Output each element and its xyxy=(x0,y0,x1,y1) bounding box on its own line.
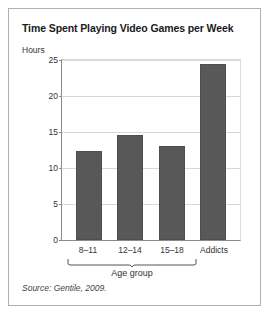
y-axis-label: Hours xyxy=(22,45,45,55)
y-axis-tick-label: 10 xyxy=(49,163,58,173)
figure-frame: Time Spent Playing Video Games per Week … xyxy=(8,8,261,306)
y-axis-tick-label: 20 xyxy=(49,91,58,101)
y-axis-tick-mark xyxy=(59,240,62,241)
x-axis-tick-label: Addicts xyxy=(194,245,234,255)
x-axis-group-label: Age group xyxy=(67,268,197,278)
age-group-brace-icon xyxy=(67,259,197,268)
bar xyxy=(117,135,143,240)
bar xyxy=(200,64,226,240)
chart-title: Time Spent Playing Video Games per Week xyxy=(22,22,233,34)
x-axis-tick-label: 15–18 xyxy=(152,245,192,255)
y-axis-tick-label: 5 xyxy=(53,199,58,209)
plot-wrapper: 0510152025 8–1112–1415–18Addicts Age gro… xyxy=(22,55,249,245)
plot-area: 0510152025 xyxy=(61,59,241,241)
y-axis-tick-label: 15 xyxy=(49,127,58,137)
bar xyxy=(159,146,185,240)
x-axis-tick-labels: 8–1112–1415–18Addicts xyxy=(61,245,241,255)
y-axis-tick-label: 25 xyxy=(49,55,58,65)
bar-series xyxy=(62,60,240,240)
x-axis-tick-label: 12–14 xyxy=(110,245,150,255)
y-axis-tick-label: 0 xyxy=(53,235,58,245)
bar xyxy=(76,151,102,240)
source-note: Source: Gentile, 2009. xyxy=(22,283,107,293)
x-axis-tick-label: 8–11 xyxy=(68,245,108,255)
